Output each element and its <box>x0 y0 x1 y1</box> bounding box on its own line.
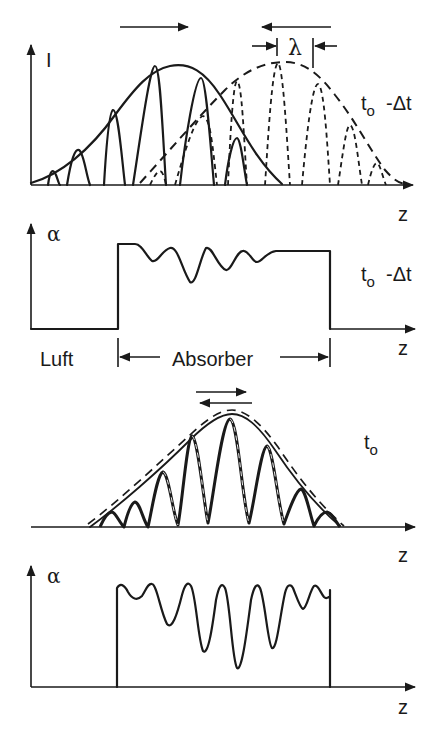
y-axis-label-alpha-1: α <box>47 224 61 244</box>
time-label-panel3: to <box>364 432 378 457</box>
panel-absorption-overlap <box>31 566 415 687</box>
panel-intensity-before <box>31 27 413 185</box>
y-axis-label-alpha-2: α <box>47 566 61 586</box>
x-axis-label-panel3: z <box>398 545 408 565</box>
x-axis-label-panel2: z <box>398 338 408 358</box>
x-axis-label-panel1: z <box>398 204 408 224</box>
backward-fringes <box>150 63 386 185</box>
region-label-absorber: Absorber <box>172 349 253 369</box>
forward-fringes <box>48 66 247 185</box>
wavelength-label: λ <box>288 37 302 59</box>
interference-fringes <box>100 419 340 527</box>
absorption-profile <box>31 244 330 329</box>
panel-intensity-overlap <box>31 392 415 527</box>
time-label-panel2: to -Δt <box>361 264 412 289</box>
time-label-panel1: to -Δt <box>361 93 412 118</box>
forward-envelope <box>90 414 340 527</box>
region-label-air: Luft <box>40 349 73 369</box>
y-axis-label-intensity: I <box>46 50 52 70</box>
absorption-grating-profile <box>117 584 330 687</box>
panel-absorption-before <box>31 224 415 367</box>
x-axis-label-panel4: z <box>398 697 408 717</box>
